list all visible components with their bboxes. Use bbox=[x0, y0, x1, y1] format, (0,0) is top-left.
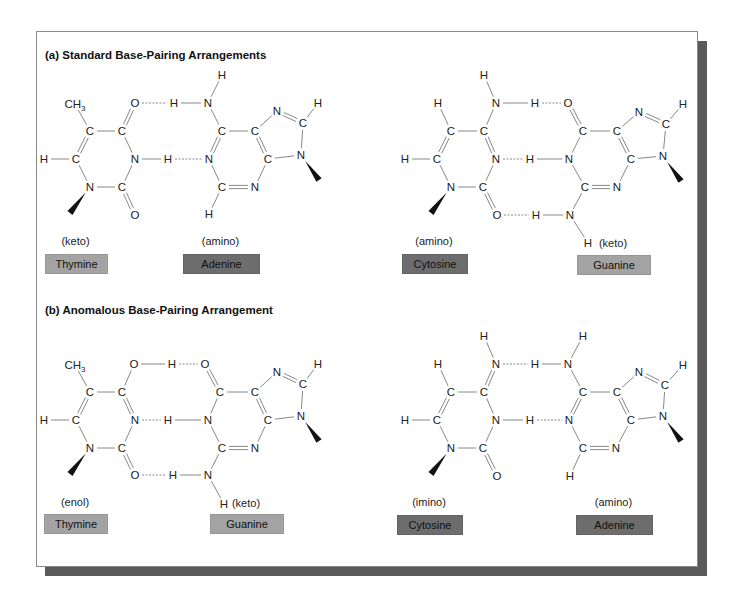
wedge-bond bbox=[67, 193, 85, 215]
atom-h: H bbox=[480, 69, 488, 81]
atom-n: N bbox=[492, 414, 500, 426]
atom-c: C bbox=[447, 386, 455, 398]
atom-h: H bbox=[168, 358, 176, 370]
atom-h: H bbox=[401, 414, 409, 426]
atom-h: H bbox=[531, 358, 539, 370]
atom-c: C bbox=[479, 442, 487, 454]
atom-h: H bbox=[401, 153, 409, 165]
base-name-thymine: Thymine bbox=[45, 254, 108, 274]
atom-c: C bbox=[579, 386, 587, 398]
base-name-thymine: Thymine bbox=[44, 514, 108, 534]
atom-h: H bbox=[170, 97, 178, 109]
atom-h: H bbox=[205, 208, 213, 220]
atom-h: H bbox=[679, 98, 687, 110]
atom-c: C bbox=[579, 125, 587, 137]
tautomer-label: (enol) bbox=[35, 496, 115, 508]
atom-c: C bbox=[72, 153, 80, 165]
atom-n: N bbox=[297, 149, 305, 161]
atom-h: H bbox=[526, 414, 534, 426]
base-name-cytosine: Cytosine bbox=[402, 254, 468, 274]
atom-n: N bbox=[566, 209, 574, 221]
tautomer-label: (keto) bbox=[573, 237, 653, 249]
atom-c: C bbox=[661, 379, 669, 391]
atom-c: C bbox=[118, 125, 126, 137]
atom-o: O bbox=[201, 358, 210, 370]
atom-c: C bbox=[579, 442, 587, 454]
atom-n: N bbox=[297, 410, 305, 422]
atom-h: H bbox=[579, 330, 587, 342]
atom-n: N bbox=[492, 153, 500, 165]
atom-o: O bbox=[493, 470, 502, 482]
wedge-bond bbox=[667, 162, 684, 183]
tautomer-label: (amino) bbox=[181, 235, 261, 247]
atom-c: C bbox=[613, 386, 621, 398]
atom-c: C bbox=[299, 378, 307, 390]
atom-n: N bbox=[564, 358, 572, 370]
tautomer-label: (amino) bbox=[394, 235, 474, 247]
atom-h: H bbox=[40, 153, 48, 165]
atom-c: C bbox=[299, 117, 307, 129]
base-name-adenine: Adenine bbox=[183, 254, 260, 274]
atom-h: H bbox=[480, 330, 488, 342]
atom-c: C bbox=[480, 125, 488, 137]
wedge-bond bbox=[428, 454, 446, 476]
atom-c: C bbox=[118, 386, 126, 398]
atom-c: C bbox=[264, 153, 272, 165]
atom-c: C bbox=[433, 153, 441, 165]
atom-n: N bbox=[565, 153, 573, 165]
atom-c: C bbox=[613, 125, 621, 137]
atom-n: N bbox=[86, 181, 94, 193]
atom-h: H bbox=[434, 358, 442, 370]
atom-h: H bbox=[40, 414, 48, 426]
atom-n: N bbox=[635, 106, 643, 118]
atom-c: C bbox=[86, 125, 94, 137]
atom-c: C bbox=[218, 442, 226, 454]
atom-o: O bbox=[130, 358, 139, 370]
atom-c: C bbox=[251, 386, 259, 398]
atom-c: C bbox=[118, 442, 126, 454]
atom-c: C bbox=[86, 386, 94, 398]
atom-o: O bbox=[131, 469, 140, 481]
atom-c: C bbox=[480, 386, 488, 398]
atom-n: N bbox=[131, 153, 139, 165]
base-name-adenine: Adenine bbox=[576, 515, 653, 535]
atom-n: N bbox=[273, 105, 281, 117]
atom-o: O bbox=[131, 209, 140, 221]
atom-h: H bbox=[314, 358, 322, 370]
atom-n: N bbox=[251, 442, 259, 454]
atom-c: C bbox=[264, 414, 272, 426]
atom-n: N bbox=[204, 97, 212, 109]
atom-h: H bbox=[164, 153, 172, 165]
atom-c: C bbox=[662, 118, 670, 130]
wedge-bond bbox=[305, 161, 322, 182]
tautomer-label: (keto) bbox=[206, 497, 286, 509]
wedge-bond bbox=[667, 422, 684, 443]
atom-h: H bbox=[169, 469, 177, 481]
atom-c: C bbox=[216, 386, 224, 398]
atom-n: N bbox=[613, 181, 621, 193]
tautomer-label: (amino) bbox=[574, 496, 654, 508]
atom-n: N bbox=[131, 414, 139, 426]
atom-o: O bbox=[131, 97, 140, 109]
atom-h: H bbox=[164, 414, 172, 426]
atom-c: C bbox=[433, 414, 441, 426]
base-name-cytosine: Cytosine bbox=[397, 515, 463, 535]
base-name-guanine: Guanine bbox=[577, 255, 651, 275]
atom-c: C bbox=[72, 414, 80, 426]
wedge-bond bbox=[67, 454, 85, 476]
atom-n: N bbox=[635, 366, 643, 378]
atom-h: H bbox=[434, 97, 442, 109]
atom-h: H bbox=[218, 69, 226, 81]
atom-n: N bbox=[86, 442, 94, 454]
atom-c: C bbox=[251, 125, 259, 137]
atom-n: N bbox=[492, 97, 500, 109]
atom-o: O bbox=[493, 209, 502, 221]
wedge-bond bbox=[428, 193, 446, 215]
atom-h: H bbox=[314, 97, 322, 109]
atom-n: N bbox=[612, 442, 620, 454]
wedge-bond bbox=[305, 422, 322, 443]
atom-h: H bbox=[532, 209, 540, 221]
atom-n: N bbox=[659, 410, 667, 422]
tautomer-label: (imino) bbox=[389, 496, 469, 508]
atom-o: O bbox=[564, 97, 573, 109]
